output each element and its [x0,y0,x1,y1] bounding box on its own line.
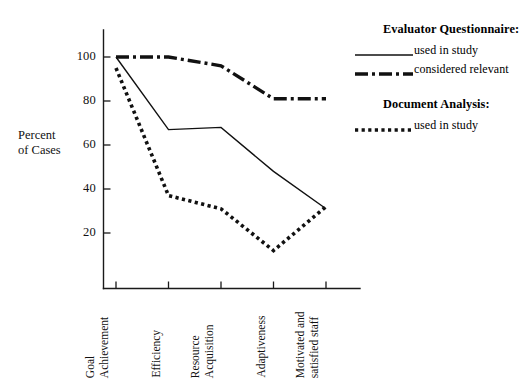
legend-group-1: Document Analysis:used in study [383,97,522,133]
data-series-layer [116,57,326,251]
y-axis-title-line-2: of Cases [18,143,84,158]
x-category-label-0-line-2: Achievement [97,317,111,378]
y-axis-title-line-1: Percent [18,128,84,143]
legend-line-swatch-solid [355,46,413,56]
legend-group-title-1: Document Analysis: [383,97,522,112]
x-axis-ticks [116,282,326,289]
axes-group [104,30,361,289]
x-category-label-3-line-1: Adaptiveness [255,316,269,378]
line-chart: 10080604020 Percent of Cases GoalAchieve… [0,0,522,380]
y-axis-title: Percent of Cases [18,128,84,159]
legend-item-label-0-1: considered relevant [414,62,509,77]
legend-item-0-0[interactable]: used in study [355,43,522,58]
x-category-label-0-line-1: Goal [84,317,98,378]
x-category-label-2: ResourceAcquisition [189,324,216,378]
y-tick-label-100: 100 [58,49,96,64]
legend-group-spacer [383,81,522,97]
legend-item-1-0[interactable]: used in study [355,118,522,133]
x-category-label-3: Adaptiveness [255,316,269,378]
y-axis-ticks [104,57,111,233]
legend-item-label-0-0: used in study [414,43,478,58]
series-line-1 [116,57,326,99]
legend-group-title-0: Evaluator Questionnaire: [383,22,522,37]
y-tick-label-80: 80 [58,93,96,108]
legend-item-0-1[interactable]: considered relevant [355,62,522,77]
x-category-label-2-line-2: Acquisition [202,324,216,378]
legend-group-0: Evaluator Questionnaire:used in studycon… [383,22,522,77]
y-tick-label-20: 20 [58,225,96,240]
x-category-label-4: Motivated andsatisfied staff [294,311,321,378]
legend-item-label-1-0: used in study [414,118,478,133]
chart-legend: Evaluator Questionnaire:used in studycon… [383,22,522,137]
x-category-label-0: GoalAchievement [84,317,111,378]
x-category-label-1-line-1: Efficiency [150,330,164,378]
series-line-0 [116,57,326,209]
legend-line-swatch-dotted [355,121,413,131]
x-category-label-1: Efficiency [150,330,164,378]
x-category-label-2-line-1: Resource [189,324,203,378]
x-category-label-4-line-1: Motivated and [294,311,308,378]
y-tick-label-40: 40 [58,181,96,196]
legend-line-swatch-dash-dot [355,65,413,75]
series-line-2 [116,68,326,251]
x-category-label-4-line-2: satisfied staff [307,311,321,378]
